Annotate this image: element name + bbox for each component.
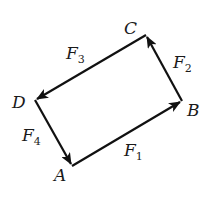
force-label-f4: F4	[21, 125, 41, 148]
vector-f3	[37, 35, 146, 99]
force-label-f1: F1	[123, 140, 143, 163]
point-label-c: C	[124, 18, 137, 38]
point-label-d: D	[11, 92, 26, 112]
point-label-b: B	[186, 100, 200, 120]
vector-f4	[35, 100, 71, 164]
vector-diagram: C D B A F3 F2 F4 F1	[0, 0, 213, 199]
force-label-f3: F3	[65, 43, 85, 66]
point-label-a: A	[52, 165, 66, 185]
force-label-f2: F2	[172, 52, 192, 75]
